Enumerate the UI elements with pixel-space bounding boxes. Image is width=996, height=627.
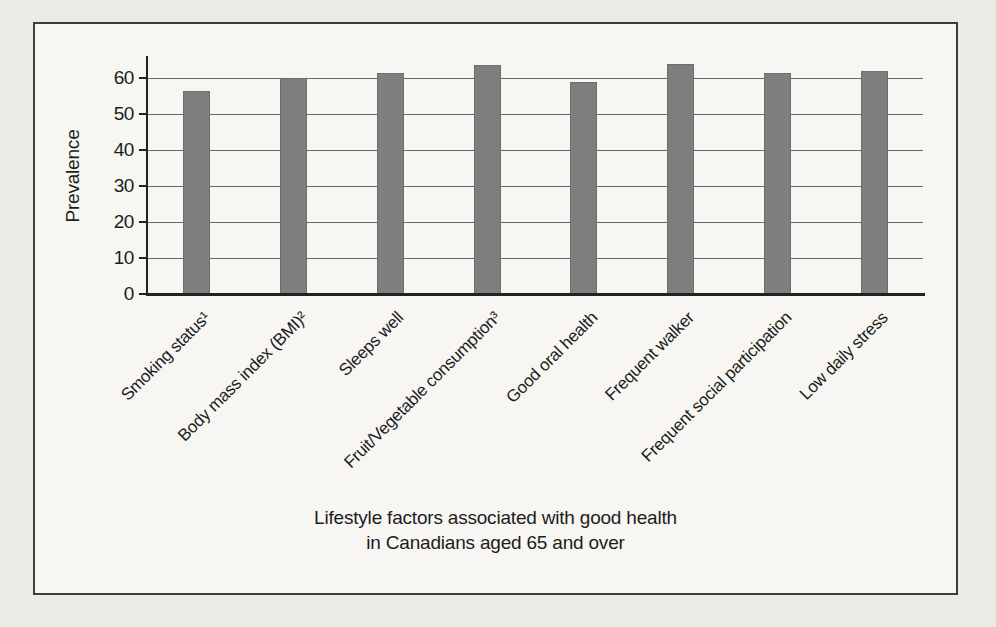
axis-tick: [139, 149, 148, 151]
y-tick-label: 50: [74, 103, 134, 125]
gridline: [148, 258, 923, 259]
y-tick-label: 40: [74, 139, 134, 161]
x-category-label-text: Smoking status¹: [117, 308, 214, 405]
x-category-label-text: Frequent walker: [602, 308, 699, 405]
axis-tick: [139, 257, 148, 259]
chart-frame: Prevalence Lifestyle factors associated …: [33, 22, 958, 595]
axis-tick: [139, 293, 148, 295]
bar: [667, 64, 694, 294]
x-axis-title-line1: Lifestyle factors associated with good h…: [35, 505, 956, 530]
axis-tick: [139, 113, 148, 115]
y-tick-label: 0: [74, 283, 134, 305]
x-category-label-text: Fruit/Vegetable consumption³: [341, 308, 506, 473]
y-tick-label: 30: [74, 175, 134, 197]
axis-tick: [139, 185, 148, 187]
y-tick-label: 10: [74, 247, 134, 269]
gridline: [148, 78, 923, 79]
x-axis-line: [146, 293, 925, 296]
y-tick-label: 20: [74, 211, 134, 233]
gridline: [148, 222, 923, 223]
gridline: [148, 114, 923, 115]
x-category-label-text: Sleeps well: [336, 308, 409, 381]
bar: [377, 73, 404, 294]
x-axis-title: Lifestyle factors associated with good h…: [35, 505, 956, 555]
axis-tick: [139, 221, 148, 223]
bar: [474, 65, 501, 294]
x-category-label-text: Good oral health: [502, 308, 602, 408]
plot-area: [148, 58, 923, 294]
scanned-page: { "chart_data": { "type": "bar", "title"…: [0, 0, 996, 627]
bar: [183, 91, 210, 294]
x-category-label-text: Low daily stress: [796, 308, 892, 404]
bar: [861, 71, 888, 294]
gridline: [148, 150, 923, 151]
axis-tick: [139, 77, 148, 79]
bar: [570, 82, 597, 294]
gridline: [148, 186, 923, 187]
bar: [280, 78, 307, 294]
y-tick-label: 60: [74, 67, 134, 89]
bar: [764, 73, 791, 294]
x-axis-title-line2: in Canadians aged 65 and over: [35, 530, 956, 555]
